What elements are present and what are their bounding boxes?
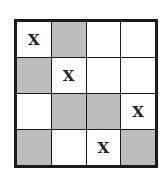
cell-r4-c4 bbox=[121, 130, 155, 165]
puzzle-grid: X X X X bbox=[14, 19, 158, 168]
cell-r4-c2 bbox=[52, 130, 86, 165]
cell-r1-c3 bbox=[87, 22, 121, 57]
cell-r3-c3 bbox=[87, 94, 121, 129]
cell-r3-c2 bbox=[52, 94, 86, 129]
cell-r2-c2: X bbox=[52, 58, 86, 93]
cell-r3-c1 bbox=[17, 94, 51, 129]
cell-r1-c1: X bbox=[17, 22, 51, 57]
cell-r1-c2 bbox=[52, 22, 86, 57]
cell-r2-c1 bbox=[17, 58, 51, 93]
cell-r2-c3 bbox=[87, 58, 121, 93]
cell-r4-c1 bbox=[17, 130, 51, 165]
cell-r3-c4: X bbox=[121, 94, 155, 129]
cell-r4-c3: X bbox=[87, 130, 121, 165]
cell-r2-c4 bbox=[121, 58, 155, 93]
cell-r1-c4 bbox=[121, 22, 155, 57]
